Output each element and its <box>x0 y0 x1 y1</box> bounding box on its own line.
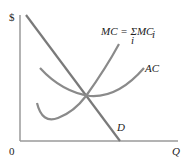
y-axis-label: $ <box>9 11 15 23</box>
marginal-cost-curve <box>37 44 119 119</box>
origin-label: 0 <box>9 145 15 157</box>
ac-curve-label: AC <box>144 62 160 74</box>
demand-curve-label: D <box>116 121 125 133</box>
average-cost-curve <box>40 68 144 96</box>
x-axis-label: Q <box>172 145 180 157</box>
mc-sigma-index: i <box>131 34 134 46</box>
mc-curve-label-subscript: i <box>152 28 155 40</box>
cost-curve-diagram: $ 0 Q MC = ΣMC i i AC D <box>0 0 188 166</box>
mc-curve-label: MC = ΣMC <box>100 25 154 37</box>
